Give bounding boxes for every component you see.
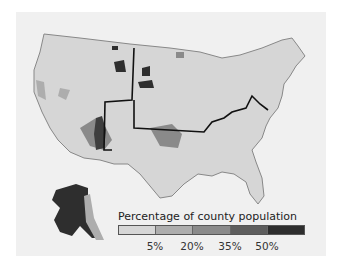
legend-title: Percentage of county population	[118, 210, 297, 223]
contiguous-us	[34, 34, 305, 204]
legend-tick-50: 50%	[255, 240, 278, 252]
legend-tick-35: 35%	[218, 240, 241, 252]
legend-swatch-5	[268, 226, 304, 234]
legend-tick-20: 20%	[180, 240, 203, 252]
legend-swatch-3	[193, 226, 230, 234]
legend-tick-5: 5%	[147, 240, 164, 252]
legend-swatch-4	[231, 226, 268, 234]
legend-swatch-1	[119, 226, 156, 234]
legend-bar	[118, 225, 305, 235]
legend-swatch-2	[156, 226, 193, 234]
